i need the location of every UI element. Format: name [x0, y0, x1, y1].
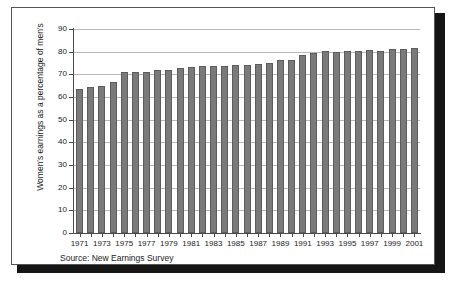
x-tick-mark [347, 234, 348, 237]
x-tick-mark [225, 234, 226, 237]
figure-frame: Women's earnings as a percentage of men'… [11, 7, 435, 265]
bar [121, 72, 128, 233]
bar [322, 51, 329, 233]
y-tick-label: 30 [45, 161, 67, 169]
y-tick-label: 40 [45, 138, 67, 146]
x-tick-mark [280, 234, 281, 237]
bar [143, 72, 150, 233]
y-tick-label: 70 [45, 70, 67, 78]
bar [232, 65, 239, 233]
bar [377, 51, 384, 233]
screenshot-page: Women's earnings as a percentage of men'… [0, 0, 452, 282]
bar [355, 51, 362, 233]
bar [255, 64, 262, 233]
x-tick-label: 1977 [135, 239, 159, 248]
y-tick-label: 20 [45, 184, 67, 192]
bar [165, 70, 172, 233]
bar [76, 89, 83, 233]
x-tick-label: 1979 [157, 239, 181, 248]
x-tick-mark [381, 234, 382, 237]
x-tick-label: 1971 [68, 239, 92, 248]
x-tick-mark [336, 234, 337, 237]
bar [400, 49, 407, 234]
x-tick-mark [214, 234, 215, 237]
x-tick-mark [80, 234, 81, 237]
x-tick-label: 1989 [268, 239, 292, 248]
x-tick-label: 1975 [112, 239, 136, 248]
x-tick-mark [180, 234, 181, 237]
x-tick-mark [202, 234, 203, 237]
x-tick-label: 1997 [358, 239, 382, 248]
bar [210, 66, 217, 233]
x-tick-mark [314, 234, 315, 237]
x-tick-mark [414, 234, 415, 237]
bar [333, 52, 340, 233]
bar [299, 55, 306, 233]
x-tick-mark [236, 234, 237, 237]
y-tick-label: 50 [45, 116, 67, 124]
x-tick-label: 1985 [224, 239, 248, 248]
x-tick-label: 1991 [291, 239, 315, 248]
x-tick-mark [135, 234, 136, 237]
x-tick-label: 1981 [179, 239, 203, 248]
y-tick-label: 80 [45, 48, 67, 56]
bar [277, 60, 284, 233]
bar [154, 70, 161, 233]
x-tick-mark [147, 234, 148, 237]
y-tick-label: 0 [45, 229, 67, 237]
bar [188, 67, 195, 233]
bar [366, 50, 373, 233]
x-tick-label: 1983 [202, 239, 226, 248]
x-tick-label: 1987 [246, 239, 270, 248]
x-tick-mark [370, 234, 371, 237]
x-tick-mark [102, 234, 103, 237]
bar [344, 51, 351, 233]
x-tick-mark [359, 234, 360, 237]
bar [244, 65, 251, 233]
x-tick-mark [158, 234, 159, 237]
x-tick-mark [292, 234, 293, 237]
x-tick-mark [403, 234, 404, 237]
plot-area [74, 29, 420, 233]
x-tick-label: 1999 [380, 239, 404, 248]
x-tick-mark [303, 234, 304, 237]
bar [411, 48, 418, 233]
x-tick-label: 1995 [335, 239, 359, 248]
x-tick-mark [325, 234, 326, 237]
bar [87, 87, 94, 233]
x-tick-mark [247, 234, 248, 237]
bar [199, 66, 206, 233]
x-tick-mark [169, 234, 170, 237]
source-note: Source: New Earnings Survey [60, 253, 173, 263]
bar [98, 86, 105, 233]
x-tick-mark [91, 234, 92, 237]
bar [389, 49, 396, 234]
bar [221, 66, 228, 233]
x-tick-mark [113, 234, 114, 237]
x-tick-mark [258, 234, 259, 237]
bar [266, 63, 273, 233]
bar [110, 82, 117, 233]
bar [288, 60, 295, 233]
x-tick-label: 2001 [402, 239, 426, 248]
x-tick-mark [392, 234, 393, 237]
bar-chart: Women's earnings as a percentage of men'… [12, 8, 434, 264]
x-tick-mark [124, 234, 125, 237]
y-tick-label: 10 [45, 206, 67, 214]
x-tick-mark [191, 234, 192, 237]
y-axis-title: Women's earnings as a percentage of men'… [35, 12, 45, 202]
bar [132, 72, 139, 233]
y-tick-label: 60 [45, 93, 67, 101]
bar [177, 68, 184, 233]
y-tick-label: 90 [45, 25, 67, 33]
x-tick-mark [269, 234, 270, 237]
x-tick-label: 1993 [313, 239, 337, 248]
bar [310, 53, 317, 233]
x-tick-label: 1973 [90, 239, 114, 248]
